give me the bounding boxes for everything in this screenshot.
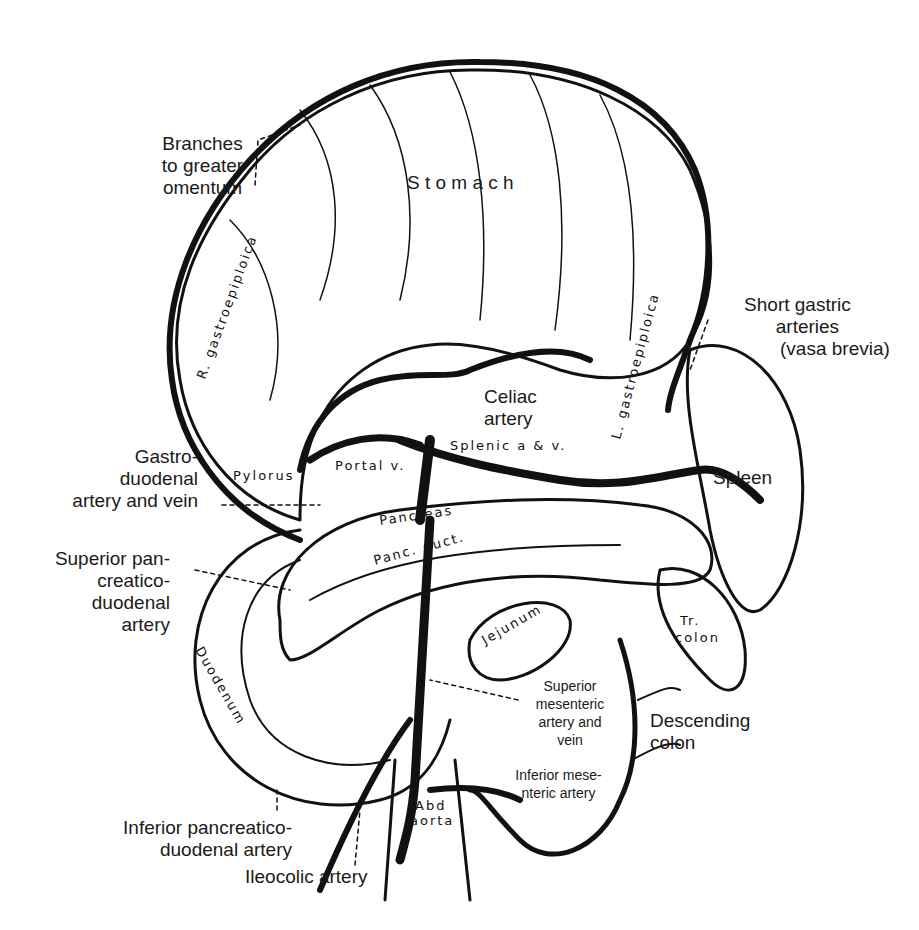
stomach-fold bbox=[300, 110, 335, 300]
label-sup-pancreatico: Superior pan- creatico- duodenal artery bbox=[40, 548, 170, 636]
inline-label-pylorus: Pylorus bbox=[233, 468, 294, 483]
label-short-gastric: Short gastric arteries (vasa brevia) bbox=[705, 294, 890, 360]
pancreatic-duct bbox=[310, 545, 620, 600]
inline-label-r-gastroepiploica: R. gastroepiploica bbox=[194, 233, 260, 381]
label-inf-mesenteric: Inferior mese- nteric artery bbox=[511, 766, 606, 802]
abdominal-aorta bbox=[385, 760, 470, 900]
leader-sup-mesenteric bbox=[430, 680, 518, 700]
label-inf-pancreatico: Inferior pancreatico- duodenal artery bbox=[100, 817, 292, 861]
label-spleen: Spleen bbox=[713, 467, 772, 489]
stomach-fold bbox=[600, 95, 634, 340]
label-gastroduodenal: Gastro- duodenal artery and vein bbox=[60, 446, 198, 512]
inline-label-tr-colon: Tr. bbox=[679, 613, 700, 628]
stomach-fold bbox=[370, 85, 410, 300]
inline-label-tr-colon-2: colon bbox=[675, 630, 720, 645]
stomach-fold bbox=[450, 72, 484, 320]
duodenum-inner bbox=[242, 560, 390, 765]
label-ileocolic: Ileocolic artery bbox=[245, 866, 368, 888]
label-celiac-artery: Celiac artery bbox=[484, 386, 537, 430]
label-stomach: S t o m a c h bbox=[407, 172, 514, 194]
inline-label-abd-aorta-2: aorta bbox=[410, 813, 454, 828]
inline-label-splenic: Splenic a & v. bbox=[450, 438, 566, 453]
hepatic-artery bbox=[310, 438, 420, 460]
inline-label-l-gastroepiploica: L. gastroepiploica bbox=[608, 291, 662, 441]
colon-branch bbox=[638, 688, 680, 700]
stomach-fold bbox=[530, 75, 562, 330]
inline-label-abd-aorta: Abd bbox=[415, 798, 446, 813]
label-branches-omentum: Branches to greater omentum bbox=[150, 133, 255, 199]
inline-label-portal-v: Portal v. bbox=[335, 458, 405, 473]
label-descending-colon: Descending colon bbox=[650, 710, 750, 754]
label-sup-mesenteric: Superior mesenteric artery and vein bbox=[530, 677, 610, 749]
